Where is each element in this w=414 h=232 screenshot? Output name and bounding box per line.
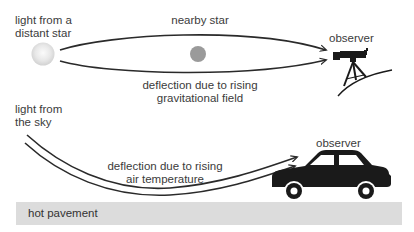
distant-star-label: light from a distant star bbox=[15, 14, 72, 40]
distant-star-label-line2: distant star bbox=[15, 27, 72, 40]
sky-light-label: light from the sky bbox=[15, 103, 62, 129]
upper-light-ray bbox=[60, 35, 326, 50]
car-observer-label-text: observer bbox=[316, 137, 361, 149]
nearby-star-label: nearby star bbox=[168, 14, 232, 27]
light-deflection-diagram: light from a distant star nearby star de… bbox=[0, 0, 414, 232]
hot-pavement: hot pavement bbox=[16, 202, 402, 225]
nearby-star-label-text: nearby star bbox=[171, 14, 229, 26]
gravitational-deflection-line2: gravitational field bbox=[132, 92, 268, 105]
distant-star-icon bbox=[32, 43, 55, 66]
air-temperature-deflection-label: deflection due to rising air temperature bbox=[97, 160, 233, 186]
lower-light-ray bbox=[60, 60, 326, 73]
air-temperature-deflection-line1: deflection due to rising bbox=[97, 160, 233, 173]
air-temperature-deflection-line2: air temperature bbox=[97, 173, 233, 186]
telescope-observer-label-text: observer bbox=[329, 32, 374, 44]
sky-light-label-line2: the sky bbox=[15, 116, 62, 129]
hot-pavement-label: hot pavement bbox=[28, 207, 98, 220]
telescope-observer-label: observer bbox=[329, 32, 374, 45]
car-observer-label: observer bbox=[316, 137, 361, 150]
gravitational-deflection-label: deflection due to rising gravitational f… bbox=[132, 79, 268, 105]
sky-light-label-line1: light from bbox=[15, 103, 62, 116]
distant-star-label-line1: light from a bbox=[15, 14, 72, 27]
nearby-star-icon bbox=[190, 46, 206, 62]
gravitational-deflection-line1: deflection due to rising bbox=[132, 79, 268, 92]
telescope-icon bbox=[333, 48, 392, 96]
car-icon bbox=[272, 150, 391, 201]
